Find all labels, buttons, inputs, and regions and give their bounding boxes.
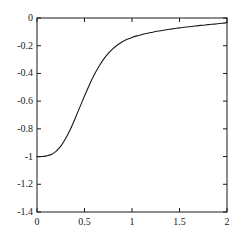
- x-tick-label: 1: [130, 217, 135, 227]
- y-tick-label: -1.4: [17, 207, 33, 217]
- chart-figure: 0-0.2-0.4-0.6-0.8-1-1.2-1.4 00.511.52: [0, 0, 241, 241]
- y-tick-label: -0.8: [17, 124, 33, 134]
- y-tick-label: 0: [28, 13, 33, 23]
- x-tick-label: 1.5: [173, 217, 186, 227]
- y-tick-label: -1.2: [17, 179, 33, 189]
- plot-area-background: [37, 18, 227, 212]
- x-tick-label: 2: [225, 217, 230, 227]
- y-tick-label: -0.4: [17, 68, 33, 78]
- y-tick-label: -0.2: [17, 41, 33, 51]
- y-tick-label: -0.6: [17, 96, 33, 106]
- plot-canvas: [0, 0, 241, 241]
- x-tick-label: 0: [35, 217, 40, 227]
- x-tick-label: 0.5: [78, 217, 91, 227]
- y-tick-label: -1: [25, 152, 33, 162]
- plot-background: [37, 18, 227, 212]
